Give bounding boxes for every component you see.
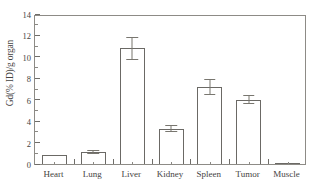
x-axis-tick-major <box>74 159 75 164</box>
error-bar-cap-top <box>126 37 138 38</box>
y-axis-tick-major <box>35 164 40 165</box>
x-axis-tick-label: Muscle <box>273 168 300 180</box>
x-axis-tick-minor <box>93 162 94 165</box>
x-axis-tick-minor <box>249 162 250 165</box>
y-axis-tick-minor <box>35 153 38 154</box>
x-axis-tick-label: Kidney <box>157 168 184 180</box>
error-bar-stem <box>209 79 210 94</box>
x-axis-tick-labels: HeartLungLiverKidneySpleenTumorMuscle <box>34 168 306 184</box>
bar-chart-figure: Gd(% ID)/g organ 02468101214 HeartLungLi… <box>0 0 320 195</box>
y-axis-tick-label: 4 <box>5 118 31 127</box>
y-axis-tick-label: 0 <box>5 161 31 170</box>
error-bar-cap-bottom <box>204 94 216 95</box>
x-axis-tick-minor <box>54 162 55 165</box>
y-axis-tick-minor <box>35 89 38 90</box>
error-bar-cap-top <box>204 79 216 80</box>
error-bar-cap-bottom <box>88 153 100 154</box>
error-bar <box>197 79 222 164</box>
x-axis-tick-minor <box>171 162 172 165</box>
y-axis-tick-label: 2 <box>5 139 31 148</box>
y-axis-tick-major <box>35 56 40 57</box>
y-axis-tick-minor <box>35 67 38 68</box>
y-axis-tick-major <box>35 35 40 36</box>
y-axis-tick-major <box>35 78 40 79</box>
x-axis-tick-major <box>113 159 114 164</box>
y-axis-tick-major <box>35 14 40 15</box>
error-bar-cap-bottom <box>126 59 138 60</box>
x-axis-tick-label: Liver <box>121 168 141 180</box>
x-axis-tick-minor <box>132 162 133 165</box>
x-axis-tick-label: Tumor <box>236 168 260 180</box>
error-bar-cap-top <box>165 125 177 126</box>
y-axis-tick-minor <box>35 24 38 25</box>
error-bar-cap-top <box>243 95 255 96</box>
x-axis-tick-major <box>190 159 191 164</box>
error-bar <box>236 96 261 164</box>
y-axis-tick-labels: 02468101214 <box>0 15 31 165</box>
y-axis-tick-major <box>35 121 40 122</box>
plot-area <box>34 15 306 165</box>
y-axis-tick-label: 8 <box>5 75 31 84</box>
x-axis-tick-major <box>229 159 230 164</box>
x-axis-tick-minor <box>288 162 289 165</box>
x-axis-tick-label: Spleen <box>197 168 222 180</box>
x-axis-tick-major <box>268 159 269 164</box>
y-axis-tick-minor <box>35 110 38 111</box>
y-axis-tick-label: 14 <box>5 11 31 20</box>
error-bar <box>120 38 145 164</box>
x-axis-tick-label: Heart <box>43 168 63 180</box>
y-axis-tick-major <box>35 142 40 143</box>
x-axis-tick-major <box>152 159 153 164</box>
error-bar-cap-bottom <box>165 131 177 132</box>
x-axis-tick-minor <box>210 162 211 165</box>
error-bar-cap-top <box>88 150 100 151</box>
x-axis-tick-label: Lung <box>83 168 102 180</box>
y-axis-tick-minor <box>35 46 38 47</box>
error-bar-cap-bottom <box>243 103 255 104</box>
y-axis-tick-label: 6 <box>5 96 31 105</box>
y-axis-tick-label: 12 <box>5 32 31 41</box>
y-axis-tick-label: 10 <box>5 54 31 63</box>
y-axis-tick-major <box>35 99 40 100</box>
error-bar-stem <box>132 38 133 59</box>
error-bar <box>159 125 184 164</box>
y-axis-tick-minor <box>35 131 38 132</box>
